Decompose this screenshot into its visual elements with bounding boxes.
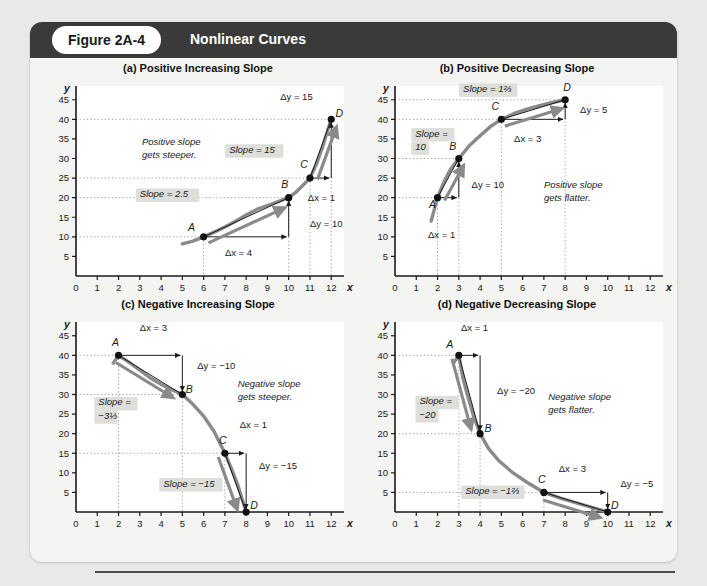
y-tick-label: 25 [377,408,388,419]
panel-c: (c) Negative Increasing Slope 0123456789… [38,298,358,538]
data-point [200,233,207,240]
x-tick-label: 1 [414,518,419,529]
point-label: B [281,178,288,190]
y-tick-label: 45 [58,94,69,105]
x-axis-label: x [665,281,673,293]
x-tick-label: 0 [392,518,397,529]
annotation-label: −20 [419,409,436,420]
x-tick-label: 0 [392,282,397,293]
y-axis-label: y [382,318,390,330]
data-point [562,96,569,103]
annotation-label: gets steeper. [142,149,197,160]
x-tick-label: 1 [414,282,419,293]
x-tick-label: 10 [283,282,294,293]
figure-number-label: Figure 2A-4 [68,32,145,48]
data-point [115,352,122,359]
x-tick-label: 3 [456,282,461,293]
x-axis-label: x [665,517,673,529]
annotation-label: gets flatter. [548,404,595,415]
panel-b-title: (b) Positive Decreasing Slope [357,62,677,74]
y-tick-label: 30 [58,153,69,164]
panel-d-title: (d) Negative Decreasing Slope [357,298,677,310]
annotation-label: Δx = 1 [461,322,488,333]
point-label: D [611,499,619,511]
annotation-label: Δy = −5 [620,478,653,489]
x-tick-label: 12 [645,518,656,529]
panel-c-title: (c) Negative Increasing Slope [38,298,358,310]
annotation-label: Δx = 1 [428,229,455,240]
y-axis-label: y [382,82,390,94]
x-tick-label: 8 [563,282,568,293]
x-tick-label: 3 [456,518,461,529]
annotation-label: Δx = 3 [559,463,586,474]
x-tick-label: 0 [73,282,78,293]
panel-b-plot: 012345678910111251015202530354045yxABCDS… [357,78,677,302]
panel-b: (b) Positive Decreasing Slope 0123456789… [357,62,677,302]
y-tick-label: 20 [58,192,69,203]
data-point [455,352,462,359]
x-tick-label: 6 [520,282,525,293]
bottom-rule [95,571,675,573]
x-tick-label: 7 [222,282,227,293]
chart-a: 012345678910111251015202530354045yxABCDP… [38,78,358,302]
x-tick-label: 11 [305,282,315,293]
annotation-label: Negative slope [238,378,301,389]
x-tick-label: 4 [477,282,482,293]
plot-background [395,86,663,276]
x-tick-label: 10 [602,518,613,529]
x-axis-label: x [346,281,354,293]
x-tick-label: 6 [520,518,525,529]
x-tick-label: 7 [541,518,546,529]
y-tick-label: 40 [58,114,69,125]
x-tick-label: 12 [326,518,337,529]
x-tick-label: 12 [645,282,656,293]
x-axis-label: x [346,517,354,529]
y-tick-label: 40 [377,114,388,125]
point-label: A [111,336,119,348]
x-tick-label: 3 [137,518,142,529]
y-tick-label: 5 [64,251,69,262]
y-tick-label: 15 [58,448,69,459]
y-tick-label: 5 [383,487,388,498]
annotation-label: gets steeper. [238,391,293,402]
x-tick-label: 6 [201,282,206,293]
y-tick-label: 30 [377,153,388,164]
annotation-label: Slope = 15 [229,144,275,155]
x-tick-label: 11 [624,518,634,529]
y-tick-label: 25 [58,172,69,183]
panel-a-plot: 012345678910111251015202530354045yxABCDP… [38,78,358,302]
y-tick-label: 15 [377,448,388,459]
x-tick-label: 9 [265,518,270,529]
point-label: A [187,221,195,233]
y-tick-label: 20 [377,428,388,439]
x-tick-label: 9 [584,282,589,293]
annotation-label: Slope = 1⅔ [463,83,511,94]
annotation-label: Slope = [419,395,452,406]
point-label: D [563,81,571,93]
y-tick-label: 10 [377,467,388,478]
x-tick-label: 2 [435,518,440,529]
annotation-label: 10 [415,141,426,152]
data-point [498,116,505,123]
figure-card: Figure 2A-4 Nonlinear Curves (a) Positiv… [30,22,677,562]
plot-background [76,86,344,276]
y-axis-label: y [63,318,71,330]
data-point [540,489,547,496]
point-label: A [445,338,453,350]
annotation-label: Δy = −15 [259,460,297,471]
annotation-label: Δx = 1 [308,192,335,203]
point-label: B [186,383,193,395]
point-label: A [428,198,436,210]
panel-d: (d) Negative Decreasing Slope 0123456789… [357,298,677,538]
x-tick-label: 10 [602,282,613,293]
annotation-label: Slope = 2.5 [140,188,189,199]
x-tick-label: 11 [305,518,315,529]
panel-a: (a) Positive Increasing Slope 0123456789… [38,62,358,302]
x-tick-label: 5 [499,282,504,293]
y-tick-label: 40 [377,350,388,361]
x-tick-label: 3 [137,282,142,293]
x-tick-label: 7 [541,282,546,293]
x-tick-label: 4 [477,518,482,529]
x-tick-label: 7 [222,518,227,529]
data-point [328,116,335,123]
